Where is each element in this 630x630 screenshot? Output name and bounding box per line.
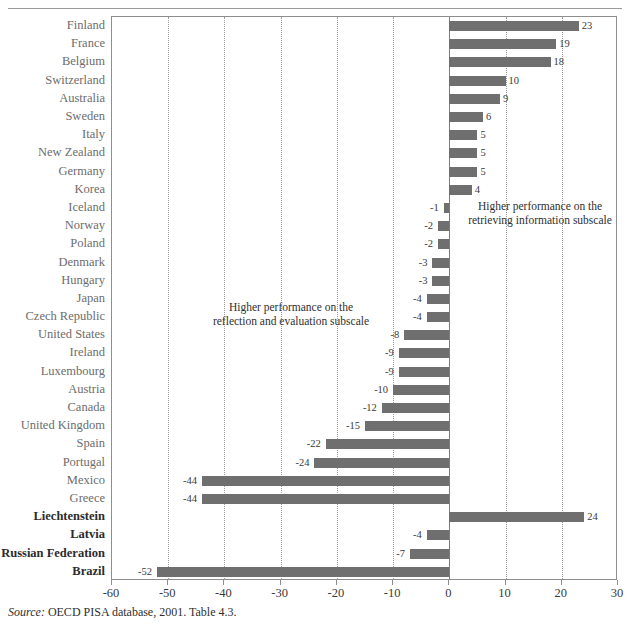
- category-label: Russian Federation: [0, 544, 105, 562]
- tick-label: -10: [384, 586, 401, 601]
- source-label: Source:: [8, 605, 45, 619]
- bar-value-label: -10: [374, 382, 388, 397]
- category-label: United States: [0, 325, 105, 343]
- bar[interactable]: [410, 549, 449, 559]
- bar[interactable]: [399, 367, 450, 377]
- bar-value-label: 10: [509, 73, 520, 88]
- bar[interactable]: [449, 512, 584, 522]
- tick-mark--60: [111, 580, 112, 585]
- bar-row: 23: [112, 17, 616, 35]
- bar-value-label: -9: [385, 345, 394, 360]
- tick-mark-20: [561, 580, 562, 585]
- bar-row: 5: [112, 144, 616, 162]
- bar-value-label: 4: [475, 182, 480, 197]
- bar[interactable]: [449, 130, 477, 140]
- bar-row: -15: [112, 417, 616, 435]
- bar[interactable]: [449, 167, 477, 177]
- bar-row: 5: [112, 126, 616, 144]
- top-divider-rule: [8, 8, 622, 9]
- plot-area: 23191810965554-1-2-2-3-3-4-4-8-9-9-10-12…: [111, 16, 617, 580]
- bar-row: -44: [112, 490, 616, 508]
- tick-label: -40: [215, 586, 232, 601]
- bar[interactable]: [432, 276, 449, 286]
- category-label: Sweden: [0, 107, 105, 125]
- bar[interactable]: [449, 76, 505, 86]
- bar-row: -4: [112, 526, 616, 544]
- bar[interactable]: [202, 494, 449, 504]
- value-axis: -60-50-40-30-20-100102030: [0, 580, 630, 604]
- bar[interactable]: [326, 439, 450, 449]
- bar[interactable]: [449, 21, 578, 31]
- bar-value-label: 18: [554, 54, 565, 69]
- bar-row: 18: [112, 53, 616, 71]
- bar-row: 5: [112, 163, 616, 181]
- bar-value-label: -44: [183, 491, 197, 506]
- bar-value-label: 19: [559, 36, 570, 51]
- bar[interactable]: [449, 57, 550, 67]
- category-label: Spain: [0, 434, 105, 452]
- bar[interactable]: [449, 185, 471, 195]
- bar-row: -24: [112, 454, 616, 472]
- bar-row: -9: [112, 344, 616, 362]
- tick-label: 30: [611, 586, 624, 601]
- tick-label: -50: [159, 586, 176, 601]
- bar[interactable]: [427, 312, 449, 322]
- bar-value-label: -4: [413, 309, 422, 324]
- bar-value-label: -2: [424, 218, 433, 233]
- bar-value-label: -44: [183, 473, 197, 488]
- bar-row: 9: [112, 90, 616, 108]
- bar-row: 4: [112, 181, 616, 199]
- bar-row: -2: [112, 235, 616, 253]
- bar[interactable]: [449, 39, 556, 49]
- category-label: Canada: [0, 398, 105, 416]
- category-label: Japan: [0, 289, 105, 307]
- category-label: Czech Republic: [0, 307, 105, 325]
- bar-value-label: -2: [424, 236, 433, 251]
- tick-label: 0: [445, 586, 451, 601]
- bar[interactable]: [399, 348, 450, 358]
- bar-row: 6: [112, 108, 616, 126]
- annotation-reflection-evaluation: Higher performance on the reflection and…: [196, 301, 386, 328]
- bar-row: -3: [112, 272, 616, 290]
- bar[interactable]: [365, 421, 449, 431]
- bar-value-label: -52: [138, 564, 152, 579]
- bar-row: -44: [112, 472, 616, 490]
- category-label: Poland: [0, 234, 105, 252]
- annotation-retrieving-information: Higher performance on the retrieving inf…: [452, 200, 628, 227]
- category-label: Australia: [0, 89, 105, 107]
- source-text: OECD PISA database, 2001. Table 4.3.: [48, 605, 237, 619]
- bar[interactable]: [157, 567, 449, 577]
- category-label: Hungary: [0, 271, 105, 289]
- bar[interactable]: [432, 258, 449, 268]
- bar-row: -12: [112, 399, 616, 417]
- bar[interactable]: [202, 476, 449, 486]
- bar[interactable]: [427, 530, 449, 540]
- bar[interactable]: [438, 221, 449, 231]
- bar[interactable]: [449, 94, 500, 104]
- bar-row: -22: [112, 435, 616, 453]
- bar[interactable]: [444, 203, 450, 213]
- bar-value-label: -4: [413, 291, 422, 306]
- bar[interactable]: [449, 148, 477, 158]
- bar-value-label: -24: [295, 455, 309, 470]
- bar[interactable]: [427, 294, 449, 304]
- bar[interactable]: [404, 330, 449, 340]
- category-label: Iceland: [0, 198, 105, 216]
- category-label: Germany: [0, 162, 105, 180]
- category-label: Liechtenstein: [0, 507, 105, 525]
- bar[interactable]: [438, 239, 449, 249]
- bar-value-label: -12: [363, 400, 377, 415]
- bar[interactable]: [393, 385, 449, 395]
- category-label: Switzerland: [0, 71, 105, 89]
- bar[interactable]: [382, 403, 449, 413]
- tick-mark--20: [336, 580, 337, 585]
- category-label: Norway: [0, 216, 105, 234]
- category-label: Portugal: [0, 453, 105, 471]
- bar-value-label: 24: [587, 509, 598, 524]
- bar-row: -8: [112, 326, 616, 344]
- tick-mark--10: [392, 580, 393, 585]
- bar[interactable]: [314, 458, 449, 468]
- tick-mark--50: [167, 580, 168, 585]
- bar[interactable]: [449, 112, 483, 122]
- bar-row: 24: [112, 508, 616, 526]
